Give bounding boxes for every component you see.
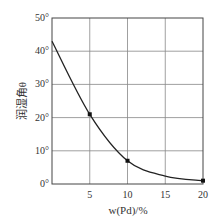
x-tick-label: 10: [123, 189, 133, 200]
y-axis-label: 润湿角θ: [15, 82, 28, 120]
y-axis-ticks: 0°10°20°30°40°50°: [35, 12, 49, 189]
y-tick-label: 40°: [35, 45, 49, 56]
y-tick-label: 10°: [35, 145, 49, 156]
data-point-marker: [126, 159, 130, 163]
y-tick-label: 30°: [35, 78, 49, 89]
x-tick-label: 20: [198, 189, 208, 200]
data-markers: [88, 112, 205, 182]
wetting-angle-chart: 0°10°20°30°40°50° 5101520 润湿角θ w(Pd)/%: [0, 0, 220, 224]
y-tick-label: 0°: [40, 178, 49, 189]
data-point-marker: [88, 112, 92, 116]
y-tick-label: 20°: [35, 112, 49, 123]
x-axis-label: w(Pd)/%: [108, 204, 147, 217]
y-tick-label: 50°: [35, 12, 49, 23]
x-tick-label: 5: [87, 189, 92, 200]
data-point-marker: [201, 179, 205, 183]
x-tick-label: 15: [160, 189, 170, 200]
x-axis-ticks: 5101520: [87, 189, 208, 200]
